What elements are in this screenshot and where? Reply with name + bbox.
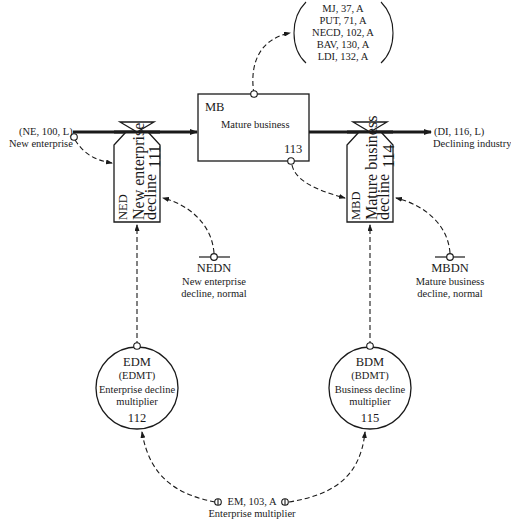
link-mb-to-mbd: [292, 165, 345, 198]
link-ne-to-ned: [75, 140, 112, 163]
link-nedn-to-ned: [163, 198, 214, 253]
rate-ned-abbr: NED: [116, 194, 131, 220]
aux-edm-eq: 112: [87, 412, 187, 424]
aux-bdm-line2: multiplier: [320, 396, 420, 408]
rate-ned-line2: decline: [142, 174, 160, 220]
aux-edm-line1: Enterprise decline: [87, 384, 187, 396]
rate-mbd-abbr: MBD: [349, 192, 364, 220]
link-mb-to-outputs: [253, 33, 290, 94]
constant-nedn-line2: decline, normal: [164, 288, 264, 300]
constant-mbdn-abbr: MBDN: [400, 262, 500, 274]
level-mb-eq: 113: [284, 143, 302, 155]
mb-output-item: LDI, 132, A: [300, 51, 386, 63]
constant-nedn-abbr: NEDN: [164, 262, 264, 274]
constant-mbdn-line1: Mature business: [400, 276, 500, 288]
mb-output-item: BAV, 130, A: [300, 39, 386, 51]
rate-mbd-line2: decline: [375, 174, 393, 220]
link-em-to-bdm: [289, 432, 365, 502]
aux-bdm-abbr: BDM: [320, 356, 420, 368]
aux-edm-abbr: EDM: [87, 356, 187, 368]
source-ne-label: New enterprise: [9, 138, 73, 150]
level-mb-abbr: MB: [205, 101, 224, 113]
link-em-to-edm: [142, 432, 215, 502]
aux-bdm-eq: 115: [320, 412, 420, 424]
multiplier-em-label: Enterprise multiplier: [202, 508, 302, 520]
level-mb-label: Mature business: [221, 119, 290, 131]
aux-edm-table: (EDMT): [87, 370, 187, 382]
mb-output-item: NECD, 102, A: [300, 27, 386, 39]
sink-di-code: (DI, 116, L): [434, 126, 484, 138]
aux-bdm-table: (BDMT): [320, 370, 420, 382]
rate-mbd-eq: 114: [380, 145, 398, 168]
rate-ned-eq: 111: [146, 145, 164, 168]
constant-symbol-mbdn[interactable]: [435, 254, 465, 261]
mb-output-item: MJ, 37, A: [300, 3, 386, 15]
mb-output-item: PUT, 71, A: [300, 15, 386, 27]
link-mbdn-to-mbd: [396, 198, 450, 253]
aux-bdm-line1: Business decline: [320, 384, 420, 396]
constant-nedn-line1: New enterprise: [164, 276, 264, 288]
constant-symbol-nedn[interactable]: [199, 254, 230, 261]
mb-outputs-list: MJ, 37, A PUT, 71, A NECD, 102, A BAV, 1…: [300, 3, 386, 63]
sink-di-label: Declining industry: [433, 138, 511, 150]
source-ne-code: (NE, 100, L): [19, 126, 73, 138]
multiplier-em-code: EM, 103, A: [202, 496, 302, 508]
constant-mbdn-line2: decline, normal: [400, 288, 500, 300]
aux-edm-line2: multiplier: [87, 396, 187, 408]
